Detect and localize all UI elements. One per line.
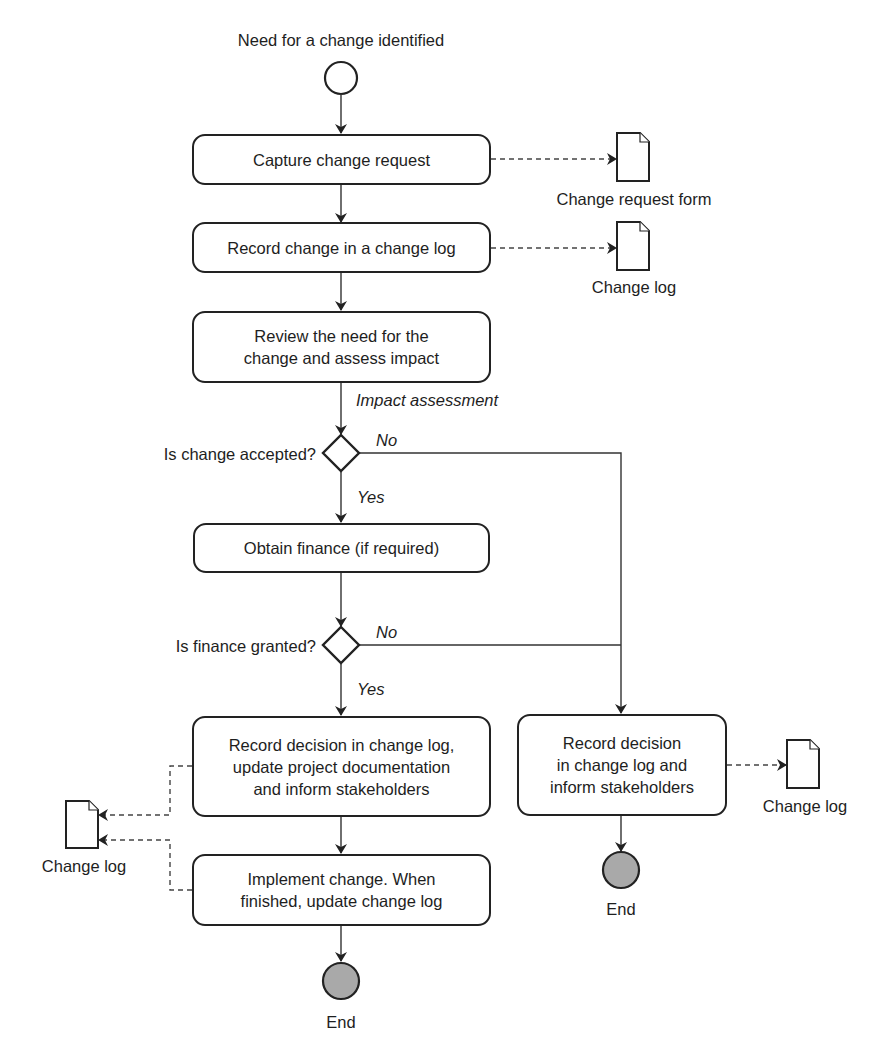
activity-text: in change log and [557, 754, 687, 776]
decision-diamond-accepted [323, 435, 359, 471]
branch-label-no: No [376, 622, 397, 642]
activity-text: Record decision in change log, [229, 734, 455, 756]
activity-record-rejection: Record decision in change log and inform… [517, 714, 727, 816]
document-icon [66, 801, 98, 848]
document-icon [617, 133, 649, 181]
end-label: End [326, 1012, 355, 1032]
end-label: End [606, 899, 635, 919]
activity-text: Review the need for the [254, 325, 428, 347]
end-node [323, 963, 359, 999]
activity-obtain-finance: Obtain finance (if required) [193, 523, 490, 573]
activity-implement-change: Implement change. When finished, update … [192, 854, 491, 926]
activity-text: Implement change. When [247, 868, 435, 890]
artifact-label-change-log: Change log [763, 796, 847, 816]
activity-text: update project documentation [233, 756, 450, 778]
flow-label-impact-assessment: Impact assessment [356, 390, 498, 410]
artifact-label-change-request-form: Change request form [556, 189, 711, 209]
branch-label-yes: Yes [357, 487, 385, 507]
decision-question-granted: Is finance granted? [176, 636, 316, 656]
activity-text: change and assess impact [244, 347, 439, 369]
activity-record-change: Record change in a change log [192, 222, 491, 273]
decision-diamond-granted [323, 627, 359, 663]
activity-text: Record decision [563, 732, 681, 754]
activity-text: and inform stakeholders [253, 778, 429, 800]
activity-capture-change-request: Capture change request [192, 134, 491, 185]
branch-label-yes: Yes [357, 679, 385, 699]
document-icon [787, 740, 819, 788]
branch-label-no: No [376, 430, 397, 450]
artifact-label-change-log: Change log [42, 856, 126, 876]
activity-text: finished, update change log [241, 890, 443, 912]
artifact-label-change-log: Change log [592, 277, 676, 297]
document-icon [617, 222, 649, 270]
activity-text: Record change in a change log [227, 237, 455, 259]
end-node [603, 852, 639, 888]
activity-text: Capture change request [253, 149, 430, 171]
start-node [325, 62, 357, 94]
activity-text: Obtain finance (if required) [244, 537, 439, 559]
activity-text: inform stakeholders [550, 776, 694, 798]
decision-question-accepted: Is change accepted? [164, 444, 316, 464]
activity-review-change: Review the need for the change and asses… [192, 311, 491, 383]
activity-record-decision: Record decision in change log, update pr… [192, 716, 491, 817]
start-label: Need for a change identified [238, 30, 444, 50]
